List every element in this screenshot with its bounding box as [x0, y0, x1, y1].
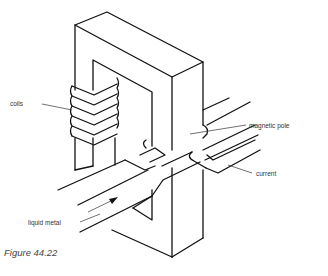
label-liquid-metal: liquid metal	[28, 219, 61, 227]
coils	[71, 78, 119, 145]
label-current: current	[256, 170, 276, 177]
electromagnetic-pump-diagram: coils magnetic pole current liquid metal…	[0, 0, 328, 276]
label-coils: coils	[10, 100, 24, 107]
label-magnetic-pole: magnetic pole	[249, 122, 290, 130]
liquid-metal-leader	[80, 214, 100, 222]
coils-leader	[42, 104, 72, 110]
liquid-metal-channel	[58, 140, 200, 232]
current-leader	[228, 165, 252, 173]
flow-arrow	[88, 197, 118, 212]
figure-caption: Figure 44.22	[4, 247, 58, 258]
